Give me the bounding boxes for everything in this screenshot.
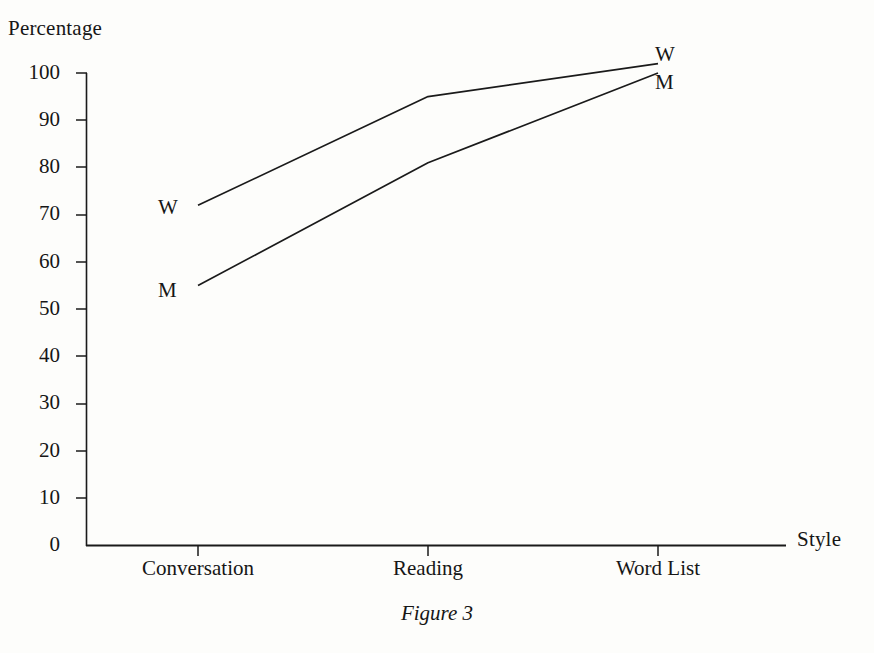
x-tick-label-conversation: Conversation [142, 556, 254, 581]
series-label-m-right: M [655, 72, 674, 93]
series-line-w [198, 64, 658, 206]
y-tick-label-10: 10 [14, 485, 60, 510]
series-label-w-right: W [655, 44, 675, 65]
y-tick-label-90: 90 [14, 107, 60, 132]
figure-caption: Figure 3 [0, 601, 874, 626]
y-axis-ticks [76, 73, 87, 498]
y-tick-label-40: 40 [14, 343, 60, 368]
y-tick-label-0: 0 [14, 532, 60, 557]
y-tick-label-30: 30 [14, 390, 60, 415]
x-axis-title: Style [797, 527, 841, 552]
series-label-m-left: M [158, 280, 177, 301]
x-axis-ticks [198, 545, 658, 556]
figure-3-line-chart: Percentage Style 100 90 80 70 60 50 40 3… [0, 0, 874, 653]
y-tick-label-50: 50 [14, 296, 60, 321]
y-tick-label-70: 70 [14, 201, 60, 226]
y-tick-label-100: 100 [14, 60, 60, 85]
x-tick-label-word-list: Word List [616, 556, 700, 581]
y-axis-title: Percentage [8, 16, 102, 41]
y-tick-label-80: 80 [14, 154, 60, 179]
x-tick-label-reading: Reading [393, 556, 463, 581]
y-tick-label-20: 20 [14, 438, 60, 463]
series-label-w-left: W [158, 197, 178, 218]
series-line-m [198, 73, 658, 286]
y-tick-label-60: 60 [14, 249, 60, 274]
